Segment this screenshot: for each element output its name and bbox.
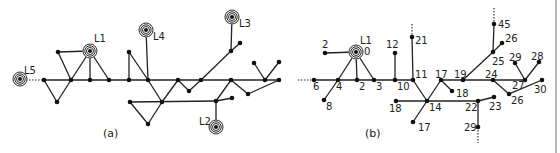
node-label: 2 [322, 39, 328, 50]
bus-node [323, 51, 328, 56]
edge [146, 30, 148, 80]
edge [178, 80, 189, 91]
node-label: 3 [376, 81, 382, 92]
node-label: 26 [511, 95, 524, 106]
node-label: 10 [397, 81, 410, 92]
node-label: 18 [389, 103, 402, 114]
bus-node [229, 49, 234, 54]
bus-node [492, 22, 497, 27]
bus-node [127, 78, 132, 83]
edge [493, 24, 494, 52]
bus-node [146, 78, 151, 83]
bus-node [146, 122, 151, 127]
node-label: 18 [456, 88, 469, 99]
bus-node [199, 78, 204, 83]
bus-node [252, 61, 257, 66]
edge [413, 101, 427, 122]
node-label: 19 [454, 69, 467, 80]
edge [58, 52, 71, 80]
bus-node [88, 78, 93, 83]
bus-node [56, 50, 61, 55]
bus-node [410, 35, 415, 40]
bus-node [491, 50, 496, 55]
edge [44, 80, 57, 102]
node-label: 29 [509, 52, 522, 63]
node-label: 23 [489, 101, 502, 112]
node-label: 30 [534, 84, 547, 95]
edge [265, 62, 279, 80]
edge [427, 80, 441, 101]
edge [254, 63, 265, 80]
edge [162, 80, 178, 102]
node-label: 26 [505, 33, 518, 44]
edge [148, 102, 162, 124]
edge [201, 51, 231, 80]
node-label: 12 [386, 39, 399, 50]
node-label: 29 [464, 122, 477, 133]
load-label: L2 [199, 116, 211, 127]
load-label: L4 [153, 31, 165, 42]
edge [412, 37, 413, 80]
bus-node [187, 89, 192, 94]
node-label: 17 [418, 122, 431, 133]
bus-node [450, 89, 455, 94]
load-spiral-icon [349, 45, 364, 60]
load-label: L3 [239, 18, 251, 29]
load-label: L5 [24, 65, 36, 76]
edge [231, 80, 248, 94]
node-label: 22 [465, 102, 478, 113]
bus-node [55, 100, 60, 105]
bus-node [246, 92, 251, 97]
load-label: L1 [360, 35, 372, 46]
edge [130, 102, 148, 124]
node-label: 8 [326, 101, 332, 112]
node-label: 27 [512, 80, 525, 91]
node-label: 21 [415, 35, 428, 46]
bus-node [277, 60, 282, 65]
bus-node [160, 100, 165, 105]
edge [57, 80, 71, 102]
bus-node [393, 51, 398, 56]
bus-node [277, 78, 282, 83]
bus-node [128, 100, 133, 105]
bus-node [229, 78, 234, 83]
panel-a-graph: L1L2L3L4L5 [13, 10, 282, 135]
edge [493, 80, 509, 94]
edge [248, 80, 279, 94]
node-label: 24 [485, 69, 498, 80]
node-label: 45 [498, 19, 511, 30]
panel-b-graph: 0224683101211211418171718192425452627292… [298, 8, 547, 143]
bus-node [69, 78, 74, 83]
bus-node [540, 78, 545, 83]
bus-node [214, 99, 219, 104]
edge [148, 80, 162, 102]
node-label: 0 [364, 46, 370, 57]
bus-node [500, 41, 505, 46]
bus-node [238, 41, 243, 46]
panel-a-caption: (a) [103, 127, 118, 140]
edge [129, 52, 148, 80]
load-spiral-icon [83, 44, 98, 59]
edge [130, 101, 216, 102]
bus-node [42, 78, 47, 83]
load-spiral-icon [225, 10, 240, 25]
edge [216, 80, 231, 101]
bus-node [263, 78, 268, 83]
bus-node [230, 96, 235, 101]
edge [441, 80, 452, 91]
node-label: 4 [336, 81, 342, 92]
bus-node [492, 95, 497, 100]
bus-node [127, 50, 132, 55]
node-label: 28 [531, 51, 544, 62]
edge [189, 80, 201, 91]
node-label: 25 [492, 56, 505, 67]
edge [525, 62, 539, 80]
bus-node [411, 120, 416, 125]
bus-node [107, 78, 112, 83]
load-spiral-icon [139, 23, 154, 38]
edge [515, 63, 525, 80]
node-label: 2 [359, 81, 365, 92]
node-label: 11 [415, 69, 428, 80]
node-label: 6 [313, 81, 319, 92]
edge [413, 80, 427, 101]
